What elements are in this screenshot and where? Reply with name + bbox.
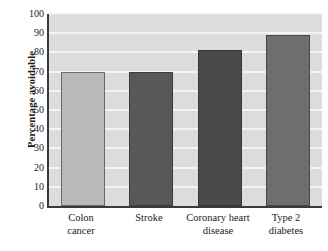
y-tick-label-50: 50	[16, 105, 44, 115]
bar-chart: Percentage avoidable 1009080706050403020…	[0, 0, 328, 251]
bar-4	[266, 35, 310, 206]
y-tick-label-10: 10	[16, 182, 44, 192]
bar-series	[49, 14, 322, 206]
y-tick-label-40: 40	[16, 124, 44, 134]
x-axis-category-labels: ColoncancerStrokeCoronary heartdiseaseTy…	[47, 211, 320, 251]
bar-2	[129, 72, 173, 206]
y-tick-label-70: 70	[16, 67, 44, 77]
y-tick-label-80: 80	[16, 47, 44, 57]
y-tick-label-90: 90	[16, 28, 44, 38]
y-tick-label-100: 100	[16, 9, 44, 19]
y-tick-label-60: 60	[16, 86, 44, 96]
bar-1	[61, 72, 105, 206]
y-tick-label-20: 20	[16, 163, 44, 173]
bar-3	[198, 50, 242, 206]
x-label-4: Type 2diabetes	[245, 211, 327, 237]
y-tick-label-0: 0	[16, 201, 44, 211]
plot-area	[47, 14, 322, 208]
y-tick-label-30: 30	[16, 143, 44, 153]
y-axis-tick-labels: 1009080706050403020100	[16, 14, 44, 206]
